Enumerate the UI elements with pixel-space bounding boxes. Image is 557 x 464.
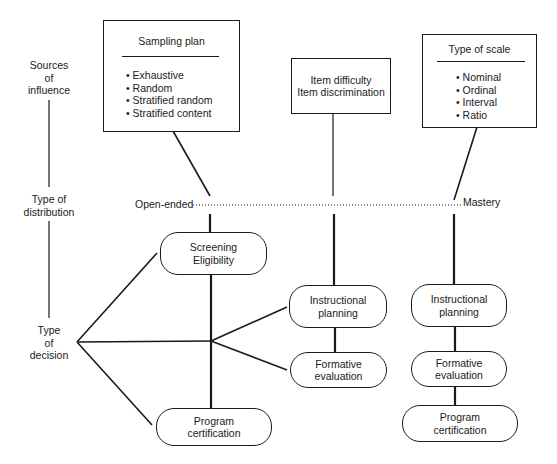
decision-label: Instructional planning bbox=[310, 294, 367, 319]
row-label-distribution: Type of distribution bbox=[9, 193, 89, 218]
connector-sampling-plan bbox=[173, 131, 210, 196]
type-of-scale-box: Type of scale Nominal Ordinal Interval R… bbox=[422, 34, 537, 128]
decision-label: Formative evaluation bbox=[435, 357, 483, 382]
connector-type-of-scale bbox=[454, 127, 477, 200]
list-item: Random bbox=[126, 82, 213, 95]
type-of-scale-title: Type of scale bbox=[423, 43, 536, 56]
decision-formative-evaluation-mastery: Formative evaluation bbox=[411, 351, 507, 387]
decision-label: Screening Eligibility bbox=[190, 241, 237, 266]
decision-program-certification-open: Program certification bbox=[156, 408, 272, 446]
decision-label: Formative evaluation bbox=[315, 358, 363, 383]
hub-to-instructional bbox=[211, 307, 287, 341]
row-label-decision: Type of decision bbox=[9, 324, 89, 362]
row-label-sources: Sources of influence bbox=[9, 59, 89, 97]
list-item: Exhaustive bbox=[126, 69, 213, 82]
sampling-plan-list: Exhaustive Random Stratified random Stra… bbox=[126, 69, 213, 119]
decision-label: Program certification bbox=[187, 415, 240, 440]
diagram-canvas: Sources of influence Type of distributio… bbox=[0, 0, 557, 464]
item-analysis-box: Item difficulty Item discrimination bbox=[291, 58, 391, 114]
type-of-scale-divider bbox=[437, 61, 525, 62]
distribution-open-ended-label: Open-ended bbox=[135, 198, 193, 211]
list-item: Stratified content bbox=[126, 107, 213, 120]
sampling-plan-box: Sampling plan Exhaustive Random Stratifi… bbox=[103, 20, 240, 132]
decision-screening-eligibility: Screening Eligibility bbox=[160, 232, 267, 275]
fork-to-hub bbox=[77, 341, 211, 342]
type-of-scale-list: Nominal Ordinal Interval Ratio bbox=[456, 71, 501, 121]
sampling-plan-divider bbox=[122, 56, 219, 57]
list-item: Nominal bbox=[456, 71, 501, 84]
decision-program-certification-mastery: Program certification bbox=[402, 405, 518, 442]
item-discrimination-text: Item discrimination bbox=[292, 86, 390, 99]
decision-label: Program certification bbox=[433, 411, 486, 436]
decision-formative-evaluation-middle: Formative evaluation bbox=[290, 352, 387, 388]
decision-instructional-planning-mastery: Instructional planning bbox=[411, 284, 507, 327]
item-difficulty-text: Item difficulty bbox=[292, 74, 390, 87]
list-item: Ratio bbox=[456, 109, 501, 122]
list-item: Stratified random bbox=[126, 94, 213, 107]
hub-to-formative bbox=[211, 341, 287, 370]
distribution-mastery-label: Mastery bbox=[463, 196, 500, 209]
list-item: Interval bbox=[456, 96, 501, 109]
list-item: Ordinal bbox=[456, 84, 501, 97]
decision-label: Instructional planning bbox=[431, 293, 488, 318]
fork-to-screening bbox=[77, 253, 157, 342]
decision-instructional-planning-middle: Instructional planning bbox=[289, 285, 387, 328]
sampling-plan-title: Sampling plan bbox=[104, 35, 239, 48]
